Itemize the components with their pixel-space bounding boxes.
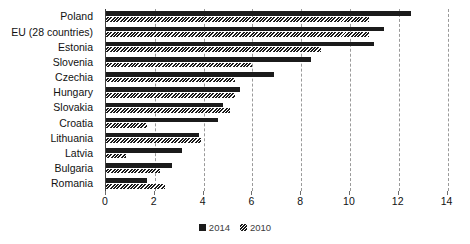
axis-tick-label: 8: [297, 196, 303, 207]
bar-2010-eu-28-countries: [106, 32, 369, 37]
bar-row: [106, 85, 448, 100]
bar-row: [106, 115, 448, 130]
category-label: Slovakia: [0, 100, 99, 115]
category-label: Poland: [0, 9, 99, 24]
legend-label: 2010: [250, 222, 271, 233]
bar-chart: PolandEU (28 countries)EstoniaSloveniaCz…: [0, 0, 470, 244]
bar-2010-slovenia: [106, 63, 252, 68]
bar-2010-hungary: [106, 93, 235, 98]
bar-2014-romania: [106, 178, 147, 183]
category-label: Czechia: [0, 70, 99, 85]
bar-2010-croatia: [106, 123, 147, 128]
legend-item-2014[interactable]: 2014: [199, 222, 230, 233]
bar-2010-bulgaria: [106, 169, 160, 174]
bar-2010-estonia: [106, 47, 321, 52]
bar-2014-hungary: [106, 87, 240, 92]
bar-row: [106, 55, 448, 70]
legend-label: 2014: [209, 222, 230, 233]
value-axis: 02468101214: [105, 191, 447, 209]
axis-tick-label: 12: [392, 196, 404, 207]
bar-row: [106, 100, 448, 115]
bar-row: [106, 146, 448, 161]
category-label: Estonia: [0, 39, 99, 54]
bar-2014-latvia: [106, 148, 182, 153]
gridline: [448, 9, 449, 191]
category-label: Lithuania: [0, 130, 99, 145]
legend-swatch-icon: [240, 224, 247, 231]
plot-area: [105, 9, 448, 191]
bar-row: [106, 24, 448, 39]
category-label: Slovenia: [0, 55, 99, 70]
legend-item-2010[interactable]: 2010: [240, 222, 271, 233]
bar-2014-poland: [106, 11, 411, 16]
bar-2010-slovakia: [106, 108, 230, 113]
bar-2014-slovakia: [106, 103, 223, 108]
category-label: Hungary: [0, 85, 99, 100]
bar-2010-latvia: [106, 154, 126, 159]
bar-2014-slovenia: [106, 57, 311, 62]
bar-row: [106, 9, 448, 24]
category-label: Latvia: [0, 146, 99, 161]
category-label: Romania: [0, 176, 99, 191]
category-label: Bulgaria: [0, 161, 99, 176]
bar-row: [106, 39, 448, 54]
axis-tick-label: 4: [200, 196, 206, 207]
bar-rows: [106, 9, 448, 191]
axis-tick-label: 10: [343, 196, 355, 207]
bar-2014-bulgaria: [106, 163, 172, 168]
bar-2010-czechia: [106, 78, 235, 83]
bar-row: [106, 176, 448, 191]
category-label: Croatia: [0, 115, 99, 130]
category-axis: PolandEU (28 countries)EstoniaSloveniaCz…: [0, 9, 99, 191]
bar-2014-estonia: [106, 42, 374, 47]
axis-tick-label: 6: [248, 196, 254, 207]
legend-swatch-icon: [199, 224, 206, 231]
chart-legend: 20142010: [0, 222, 470, 233]
axis-tick-label: 0: [102, 196, 108, 207]
bar-2010-poland: [106, 17, 369, 22]
bar-row: [106, 161, 448, 176]
bar-row: [106, 70, 448, 85]
bar-2010-romania: [106, 184, 165, 189]
bar-2014-croatia: [106, 118, 218, 123]
bar-2010-lithuania: [106, 138, 201, 143]
bar-2014-czechia: [106, 72, 274, 77]
axis-tick-label: 14: [441, 196, 453, 207]
bar-row: [106, 130, 448, 145]
bar-2014-eu-28-countries: [106, 27, 384, 32]
axis-tick-label: 2: [151, 196, 157, 207]
bar-2014-lithuania: [106, 133, 199, 138]
category-label: EU (28 countries): [0, 24, 99, 39]
